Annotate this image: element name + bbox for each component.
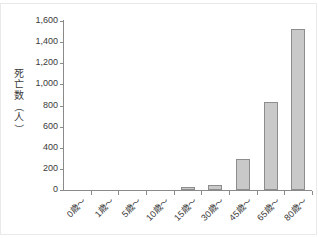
y-axis-tick [60, 169, 64, 170]
y-axis-tick-label: 1,400 [0, 37, 58, 46]
x-axis-tick [257, 191, 258, 195]
y-axis-tick [60, 21, 64, 22]
x-axis-tick [146, 191, 147, 195]
y-axis-tick-label: 1,600 [0, 16, 58, 25]
bar [264, 102, 278, 190]
x-axis-line [63, 190, 312, 191]
y-axis-tick [60, 127, 64, 128]
y-axis-title-char-0: 死 [12, 68, 25, 79]
y-axis-tick-label: 600 [0, 122, 58, 131]
y-axis-tick-label: 800 [0, 101, 58, 110]
bar [181, 187, 195, 190]
x-axis-tick [312, 191, 313, 195]
y-axis-tick [60, 148, 64, 149]
y-axis-tick [60, 42, 64, 43]
y-axis-tick [60, 63, 64, 64]
y-axis-tick-label: 1,000 [0, 79, 58, 88]
y-axis-tick-label: 0 [0, 185, 58, 194]
x-axis-tick [229, 191, 230, 195]
bar [291, 29, 305, 190]
y-axis-tick-label: 1,200 [0, 58, 58, 67]
bar [236, 159, 250, 190]
x-axis-tick [174, 191, 175, 195]
x-axis-tick [118, 191, 119, 195]
y-axis-tick [60, 190, 64, 191]
y-axis-tick [60, 84, 64, 85]
bar-chart-figure: 死 亡 数 （ 人 ） 02004006008001,0001,2001,400… [0, 0, 318, 238]
x-axis-tick [91, 191, 92, 195]
x-axis-tick [201, 191, 202, 195]
y-axis-tick-label: 400 [0, 143, 58, 152]
x-axis-tick [284, 191, 285, 195]
bar [208, 185, 222, 190]
y-axis-tick-label: 200 [0, 164, 58, 173]
y-axis-tick [60, 106, 64, 107]
